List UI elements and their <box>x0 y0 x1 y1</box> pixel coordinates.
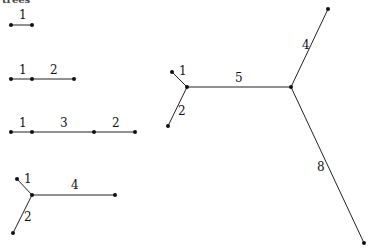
node <box>30 193 34 197</box>
node <box>15 177 19 181</box>
node <box>30 23 34 27</box>
tree-5: 1 2 5 4 8 <box>166 7 366 245</box>
edge-weight-label: 8 <box>317 160 325 174</box>
node <box>326 7 330 11</box>
node <box>113 193 117 197</box>
node <box>289 85 293 89</box>
edge-weight-label: 5 <box>235 71 243 85</box>
edge-weight-label: 1 <box>24 172 32 186</box>
node <box>92 130 96 134</box>
tree-1: 1 <box>9 8 34 27</box>
node <box>170 70 174 74</box>
edge-weight-label: 4 <box>302 38 310 52</box>
trees-diagram: trees 1 1 2 1 3 2 1 4 2 <box>0 0 375 248</box>
edge-weight-label: 2 <box>24 210 32 224</box>
node <box>30 77 34 81</box>
node <box>133 130 137 134</box>
node <box>11 231 15 235</box>
edge-weight-label: 2 <box>178 104 186 118</box>
tree-4: 1 4 2 <box>11 172 117 235</box>
tree-2: 1 2 <box>9 63 76 81</box>
tree-3: 1 3 2 <box>9 116 137 134</box>
node <box>9 23 13 27</box>
node <box>9 130 13 134</box>
edge-weight-label: 1 <box>19 63 27 77</box>
edge-weight-label: 1 <box>19 116 27 130</box>
edge-weight-label: 2 <box>50 63 58 77</box>
edge-weight-label: 3 <box>60 116 68 130</box>
edge-weight-label: 1 <box>19 8 27 22</box>
edge-weight-label: 2 <box>112 116 120 130</box>
node <box>30 130 34 134</box>
node <box>9 77 13 81</box>
node <box>166 124 170 128</box>
title-fragment: trees <box>2 0 31 5</box>
edge-weight-label: 4 <box>71 178 79 192</box>
edge-weight-label: 1 <box>179 64 187 78</box>
node <box>362 241 366 245</box>
node <box>185 85 189 89</box>
node <box>72 77 76 81</box>
edge <box>291 87 364 243</box>
